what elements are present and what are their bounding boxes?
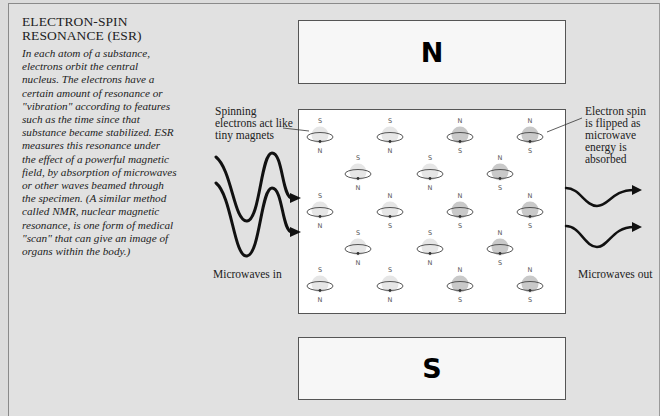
pole-label: S [318,266,322,274]
electron-icon: SN [417,154,443,192]
pole-label: S [356,229,360,237]
incoming-wave-icon [216,153,292,256]
pole-label: N [458,117,463,125]
arrowhead-icon [290,193,301,203]
pole-label: S [498,184,502,192]
pole-label: N [428,184,433,192]
electron-icon: SN [307,192,333,230]
pole-label: N [388,296,393,304]
pole-label: N [356,259,361,267]
pole-label: N [498,154,503,162]
pole-label: S [388,266,392,274]
pole-label: S [528,296,532,304]
electron-icon: NS [377,192,403,230]
electron-icon: NS [447,266,473,304]
outgoing-wave-icon [566,188,634,247]
electron-icon: SN [345,154,371,192]
electron-icon: SN [307,117,333,155]
pole-label: N [318,222,323,230]
pole-label: S [458,147,462,155]
electron-icon: NS [447,117,473,155]
pole-label: S [528,222,532,230]
electron-icon: NS [517,266,543,304]
pole-label: S [356,154,360,162]
pole-label: N [528,117,533,125]
pole-label: S [318,192,322,200]
leader-line [283,128,309,131]
pole-label: S [318,117,322,125]
pole-label: N [356,184,361,192]
pole-label: S [458,222,462,230]
pole-label: N [458,192,463,200]
pole-label: N [528,192,533,200]
pole-label: N [318,147,323,155]
electron-icon: NS [447,192,473,230]
electron-icon: SN [417,229,443,267]
electron-icon: NS [517,117,543,155]
electron-icon: SN [307,266,333,304]
electron-icon: SN [377,117,403,155]
pole-label: S [428,154,432,162]
pole-label: N [498,229,503,237]
pole-label: N [528,266,533,274]
pole-label: S [528,147,532,155]
electron-icon: SN [345,229,371,267]
pole-label: S [498,259,502,267]
pole-label: S [428,229,432,237]
arrowhead-icon [632,185,642,195]
pole-label: N [428,259,433,267]
leader-line [547,118,582,132]
electron-icon: NS [517,192,543,230]
electron-icon: SN [377,266,403,304]
pole-label: S [388,117,392,125]
pole-label: N [388,192,393,200]
electron-icon: NS [487,154,513,192]
arrowhead-icon [632,222,642,232]
pole-label: N [388,147,393,155]
pole-label: S [458,296,462,304]
electron-grid: SNSNNSNSSNSNNSSNNSNSNSSNSNNSSNSNNSNS [307,117,543,304]
pole-label: N [458,266,463,274]
arrowhead-icon [290,227,301,237]
pole-label: N [318,296,323,304]
pole-label: S [388,222,392,230]
electron-icon: NS [487,229,513,267]
